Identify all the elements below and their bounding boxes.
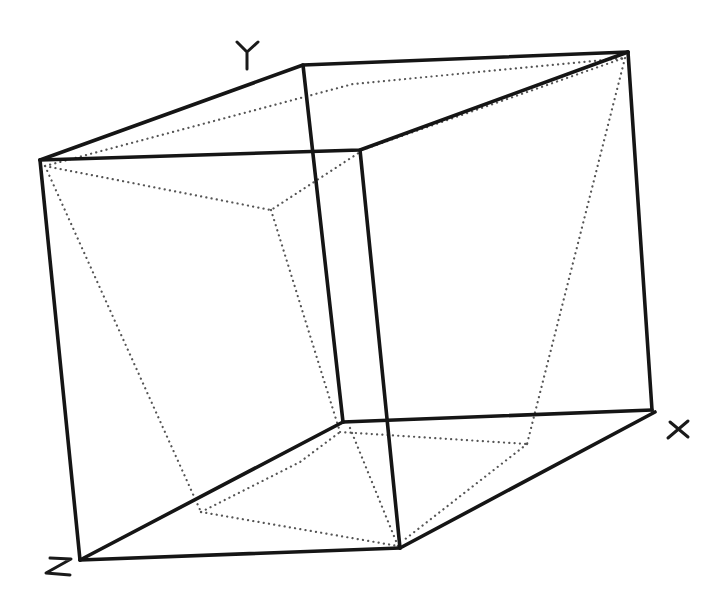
edge-vertical-front (360, 150, 400, 548)
edge-vertical-left (40, 160, 80, 560)
edge-bottom-front-to-x (400, 412, 655, 548)
edge-top-face (40, 52, 628, 160)
edge-bottom-back-to-z (80, 422, 343, 560)
dotted-edge-bottom-left-to-front (201, 512, 398, 546)
edge-vertical-right (628, 52, 652, 410)
edge-bottom-x-to-back (343, 410, 652, 422)
axis-label-z: Z (46, 547, 71, 582)
dotted-edge-right-down (527, 58, 625, 444)
axis-label-y: Y (237, 41, 258, 76)
cube-diagram: Y X Z (0, 0, 724, 606)
cube-solid-edges (40, 52, 655, 560)
edge-vertical-back (303, 65, 343, 422)
dotted-edge-bottom-back-to-right (340, 432, 527, 444)
edge-top-face-front (40, 52, 628, 160)
dotted-edge-bottom-left-to-back (201, 432, 340, 512)
dotted-edge-mid-down (271, 210, 340, 432)
edge-bottom-z-to-front (80, 548, 400, 560)
axis-label-x: X (668, 410, 689, 445)
